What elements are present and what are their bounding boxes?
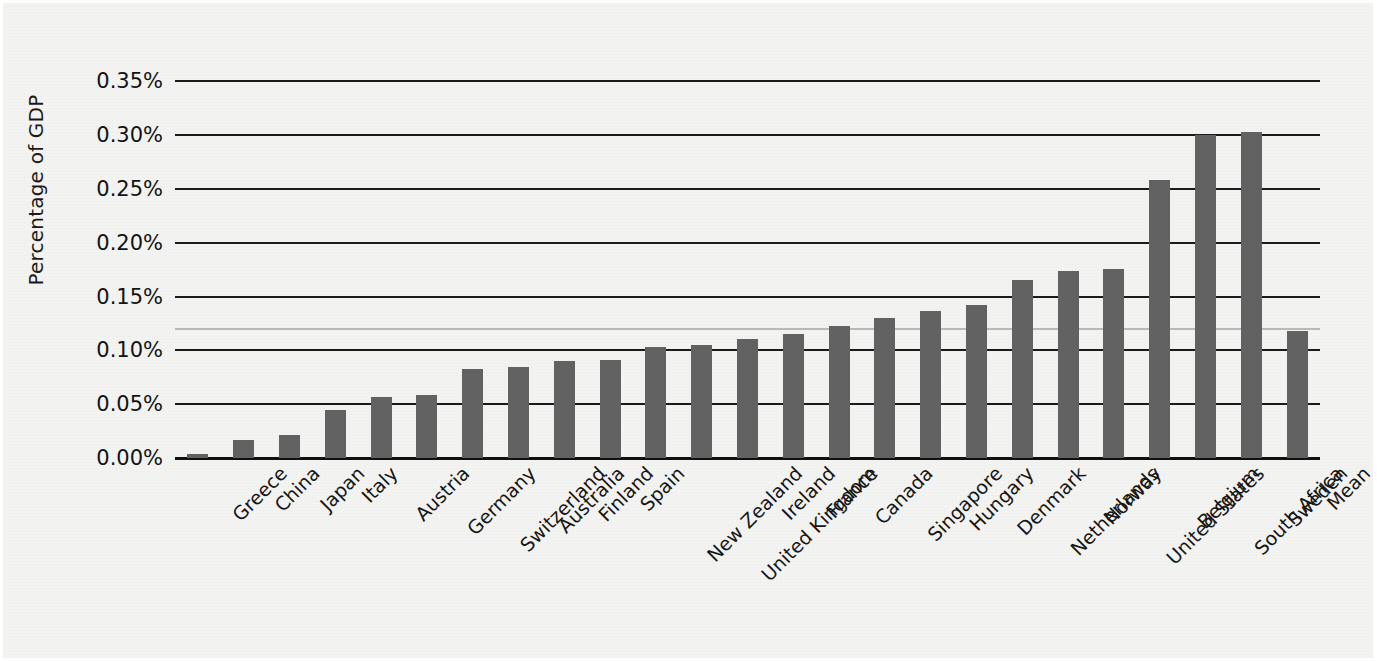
y-axis-tick-label: 0.25% — [96, 177, 163, 201]
y-axis-tick-label: 0.00% — [96, 446, 163, 470]
x-axis-tick-label: Italy — [357, 462, 402, 507]
bar — [1195, 135, 1216, 458]
bar — [737, 339, 758, 458]
y-axis-tick-label: 0.15% — [96, 285, 163, 309]
bar — [554, 361, 575, 458]
plot-area: 0.00%0.05%0.10%0.15%0.20%0.25%0.30%0.35% — [175, 76, 1320, 458]
y-axis-title: Percentage of GDP — [24, 90, 48, 290]
bar — [1058, 271, 1079, 458]
x-axis-tick-labels: GreeceChinaJapanItalyAustriaGermanySwitz… — [175, 462, 1320, 652]
figure-frame-right — [1373, 0, 1377, 661]
y-axis-tick-label: 0.35% — [96, 69, 163, 93]
chart-figure: Percentage of GDP 0.00%0.05%0.10%0.15%0.… — [0, 0, 1377, 661]
bar — [691, 345, 712, 458]
bar — [1103, 269, 1124, 458]
bar — [1287, 331, 1308, 458]
bar — [325, 410, 346, 458]
bar — [279, 435, 300, 458]
figure-frame-top — [0, 0, 1377, 3]
x-axis-tick-label: Canada — [870, 462, 937, 529]
bar — [233, 440, 254, 458]
bar — [1241, 132, 1262, 458]
bar — [416, 395, 437, 458]
bar-series — [175, 76, 1320, 458]
bar — [966, 305, 987, 458]
y-axis-tick-label: 0.20% — [96, 231, 163, 255]
bar — [829, 326, 850, 458]
bar — [783, 334, 804, 458]
bar — [187, 454, 208, 458]
bar — [600, 360, 621, 458]
bar — [371, 397, 392, 458]
bar — [920, 311, 941, 458]
x-axis-tick-label: Norway — [1099, 462, 1166, 529]
bar — [508, 367, 529, 458]
bar — [462, 369, 483, 458]
bar — [1012, 280, 1033, 458]
figure-frame-left — [0, 0, 3, 661]
x-axis-tick-label: Austria — [411, 462, 474, 525]
bar — [1149, 180, 1170, 458]
y-axis-tick-label: 0.10% — [96, 338, 163, 362]
bar — [874, 318, 895, 458]
x-axis-tick-label: Belgium — [1193, 462, 1264, 533]
bar — [645, 347, 666, 458]
y-axis-tick-label: 0.05% — [96, 392, 163, 416]
y-axis-tick-label: 0.30% — [96, 123, 163, 147]
